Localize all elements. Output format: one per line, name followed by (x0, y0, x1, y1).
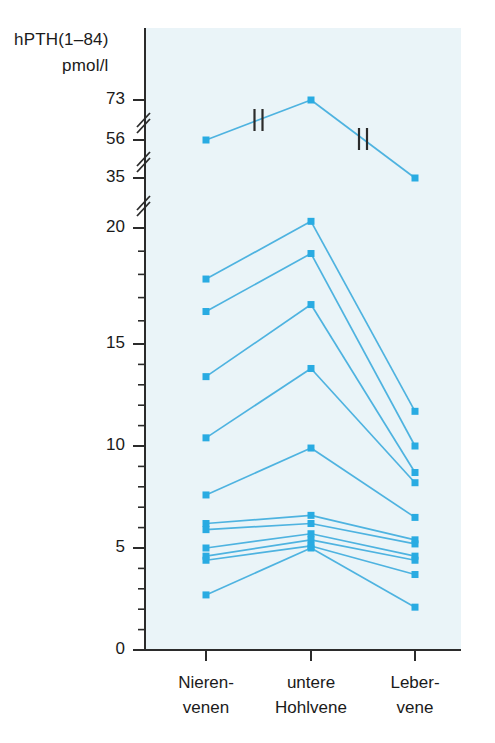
series-line-segment (311, 524, 415, 544)
data-point-marker (203, 373, 210, 380)
data-point-marker (308, 250, 315, 257)
data-point-marker (412, 408, 419, 415)
data-point-marker (412, 540, 419, 547)
data-point-marker (203, 545, 210, 552)
data-point-marker (412, 557, 419, 564)
y-axis-tick-label: 20 (81, 217, 125, 237)
data-point-marker (412, 175, 419, 182)
x-axis-tick-label-line2: vene (340, 695, 490, 720)
data-point-marker (412, 443, 419, 450)
series-line-segment (206, 548, 311, 595)
data-point-marker (412, 469, 419, 476)
series-line-segment (311, 515, 415, 539)
series-line-segment (206, 534, 311, 548)
series-line-segment (311, 100, 415, 178)
series-line-segment (206, 524, 311, 530)
series-line-segment (311, 368, 415, 482)
series-line-segment (206, 100, 311, 140)
series-line-segment (311, 254, 415, 446)
data-point-marker (203, 137, 210, 144)
x-axis-tick-label: Leber-vene (340, 670, 490, 720)
data-point-marker (412, 479, 419, 486)
series-line-segment (311, 221, 415, 411)
data-point-marker (308, 536, 315, 543)
data-point-marker (203, 434, 210, 441)
data-point-marker (308, 445, 315, 452)
data-point-marker (203, 591, 210, 598)
data-point-marker (412, 514, 419, 521)
data-point-marker (412, 604, 419, 611)
data-point-marker (308, 218, 315, 225)
y-axis-tick-label: 5 (81, 537, 125, 557)
series-line-segment (206, 221, 311, 279)
series-line-segment (311, 448, 415, 517)
y-axis-tick-label: 73 (81, 89, 125, 109)
data-point-marker (203, 308, 210, 315)
data-point-marker (203, 276, 210, 283)
y-axis-tick-label: 0 (81, 639, 125, 659)
data-point-marker (308, 520, 315, 527)
series-line-segment (311, 534, 415, 556)
y-axis-tick-label: 10 (81, 435, 125, 455)
data-point-marker (308, 97, 315, 104)
data-point-marker (203, 557, 210, 564)
series-line-segment (206, 368, 311, 437)
data-point-marker (203, 491, 210, 498)
x-axis-tick-label-line1: Leber- (340, 670, 490, 695)
y-axis-tick-label: 56 (81, 129, 125, 149)
series-line-segment (311, 305, 415, 473)
chart-canvas (0, 0, 495, 743)
series-line-segment (206, 515, 311, 523)
data-point-marker (308, 365, 315, 372)
data-point-marker (203, 526, 210, 533)
data-point-marker (203, 520, 210, 527)
series-line-segment (206, 254, 311, 312)
data-point-marker (308, 301, 315, 308)
y-axis-tick-label: 15 (81, 333, 125, 353)
y-axis-tick-label: 35 (81, 167, 125, 187)
series-line-segment (206, 448, 311, 495)
data-point-marker (308, 530, 315, 537)
data-point-marker (308, 512, 315, 519)
series-line-segment (206, 305, 311, 377)
data-point-marker (412, 571, 419, 578)
chart-root: hPTH(1–84) pmol/l 73563520151050 Nieren-… (0, 0, 495, 743)
data-point-marker (308, 545, 315, 552)
